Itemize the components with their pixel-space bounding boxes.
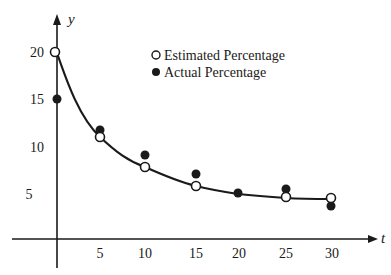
x-tick: 10 bbox=[138, 246, 152, 261]
filled-circle-icon bbox=[152, 68, 160, 76]
legend-estimated: Estimated Percentage bbox=[164, 48, 285, 63]
actual-series bbox=[53, 95, 336, 211]
actual-point bbox=[53, 95, 62, 104]
actual-point bbox=[234, 189, 243, 198]
y-tick: 5 bbox=[26, 187, 33, 202]
open-circle-icon bbox=[152, 51, 160, 59]
x-tick: 30 bbox=[325, 246, 339, 261]
estimated-point bbox=[192, 182, 201, 191]
x-tick: 20 bbox=[232, 246, 246, 261]
estimated-point bbox=[51, 48, 60, 57]
y-tick: 10 bbox=[30, 140, 44, 155]
y-tick: 15 bbox=[30, 92, 44, 107]
estimated-point bbox=[327, 194, 336, 203]
legend: Estimated Percentage Actual Percentage bbox=[152, 48, 285, 80]
actual-point bbox=[141, 151, 150, 160]
y-tick: 20 bbox=[30, 45, 44, 60]
x-axis-label: t bbox=[381, 230, 386, 246]
estimated-point bbox=[96, 133, 105, 142]
x-tick: 15 bbox=[189, 246, 203, 261]
legend-actual: Actual Percentage bbox=[164, 65, 266, 80]
chart: y t 5 10 15 20 5 10 15 20 25 30 Estimate… bbox=[0, 0, 391, 275]
x-tick: 5 bbox=[97, 246, 104, 261]
x-tick: 25 bbox=[279, 246, 293, 261]
y-axis-arrow-icon bbox=[53, 14, 61, 25]
x-axis-arrow-icon bbox=[368, 235, 378, 243]
actual-point bbox=[192, 170, 201, 179]
estimated-point bbox=[282, 193, 291, 202]
estimated-point bbox=[141, 163, 150, 172]
y-axis-label: y bbox=[66, 11, 75, 27]
